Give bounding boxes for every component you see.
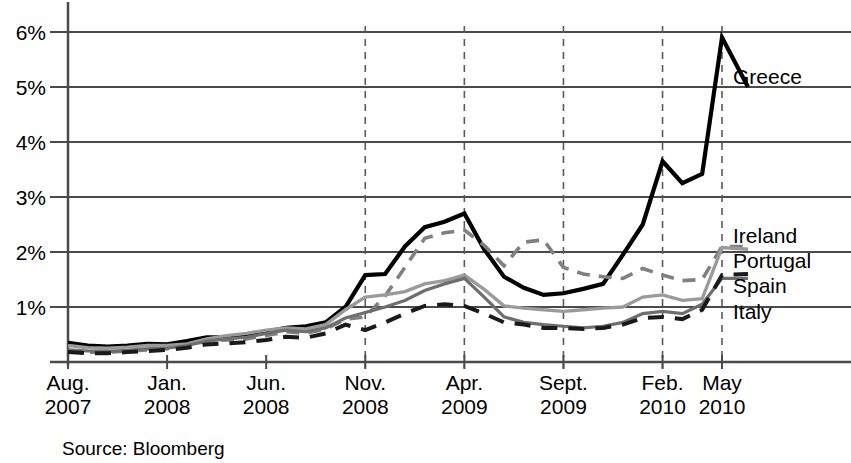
y-tick-label-2pct: 2% <box>16 241 46 264</box>
x-tick-month: Jun. <box>246 371 286 394</box>
series-label-ireland: Ireland <box>733 224 797 247</box>
series-label-group: GreeceIrelandPortugalSpainItaly <box>733 65 811 323</box>
x-tick-label-7: Feb.2010 <box>639 371 686 418</box>
x-tick-year: 2008 <box>342 395 389 418</box>
series-label-portugal: Portugal <box>733 249 811 272</box>
x-tick-year: 2008 <box>243 395 290 418</box>
y-tick-label-5pct: 5% <box>16 76 46 99</box>
x-tick-month: Jan. <box>147 371 187 394</box>
sovereign-spreads-line-chart: 1%2%3%4%5%6% Aug.2007Jan.2008Jun.2008Nov… <box>0 0 851 463</box>
series-label-italy: Italy <box>733 300 772 323</box>
x-tick-month: Nov. <box>344 371 386 394</box>
x-tick-year: 2008 <box>144 395 191 418</box>
y-tick-label-3pct: 3% <box>16 186 46 209</box>
data-series-group <box>68 38 748 354</box>
x-tick-year: 2009 <box>540 395 587 418</box>
x-tick-month: Apr. <box>446 371 483 394</box>
x-tick-year: 2009 <box>441 395 488 418</box>
x-tick-label-4: Nov.2008 <box>342 371 389 418</box>
x-tick-month: Sept. <box>539 371 588 394</box>
x-tick-year: 2010 <box>639 395 686 418</box>
gridlines-group <box>50 32 851 307</box>
x-tick-year: 2010 <box>699 395 746 418</box>
y-tick-label-4pct: 4% <box>16 131 46 154</box>
x-tick-label-1: Aug.2007 <box>45 371 92 418</box>
series-label-spain: Spain <box>733 274 787 297</box>
x-tick-month: Feb. <box>642 371 684 394</box>
x-tick-year: 2007 <box>45 395 92 418</box>
y-tick-label-1pct: 1% <box>16 296 46 319</box>
chart-figure: 1%2%3%4%5%6% Aug.2007Jan.2008Jun.2008Nov… <box>0 0 851 463</box>
x-tick-label-6: Sept.2009 <box>539 371 588 418</box>
x-tick-label-5: Apr.2009 <box>441 371 488 418</box>
x-tick-month: Aug. <box>46 371 89 394</box>
y-tick-label-6pct: 6% <box>16 21 46 44</box>
x-tick-month: May <box>702 371 742 394</box>
source-note: Source: Bloomberg <box>62 438 225 459</box>
x-tick-label-2: Jan.2008 <box>144 371 191 418</box>
x-tick-label-3: Jun.2008 <box>243 371 290 418</box>
x-axis-tick-labels: Aug.2007Jan.2008Jun.2008Nov.2008Apr.2009… <box>45 371 746 418</box>
series-label-greece: Greece <box>733 65 802 88</box>
x-tick-label-8: May2010 <box>699 371 746 418</box>
